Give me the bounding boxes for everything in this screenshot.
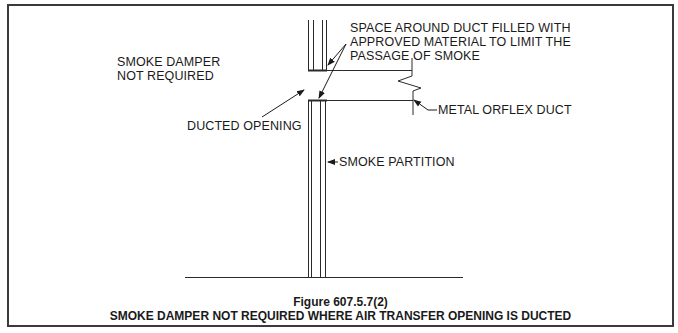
space-label-line1: SPACE AROUND DUCT FILLED WITH — [350, 21, 571, 35]
metal-duct — [308, 71, 413, 101]
smoke-damper-label-line2: NOT REQUIRED — [117, 69, 220, 83]
smoke-damper-label: SMOKE DAMPER NOT REQUIRED — [117, 55, 220, 83]
break-line — [398, 58, 421, 115]
space-label-line2: APPROVED MATERIAL TO LIMIT THE — [350, 35, 571, 49]
figure-number: Figure 607.5.7(2) — [7, 295, 674, 309]
smoke-damper-label-line1: SMOKE DAMPER — [117, 55, 220, 69]
space-label-line3: PASSAGE OF SMOKE — [350, 49, 571, 63]
upper-partition-wall — [308, 20, 327, 71]
figure-title: SMOKE DAMPER NOT REQUIRED WHERE AIR TRAN… — [7, 309, 674, 323]
space-around-duct-label: SPACE AROUND DUCT FILLED WITH APPROVED M… — [350, 21, 571, 63]
smoke-partition-label: SMOKE PARTITION — [339, 155, 455, 169]
smoke-partition-wall — [308, 100, 327, 277]
metal-duct-label: METAL ORFLEX DUCT — [438, 103, 572, 117]
ducted-opening-label: DUCTED OPENING — [187, 119, 302, 133]
